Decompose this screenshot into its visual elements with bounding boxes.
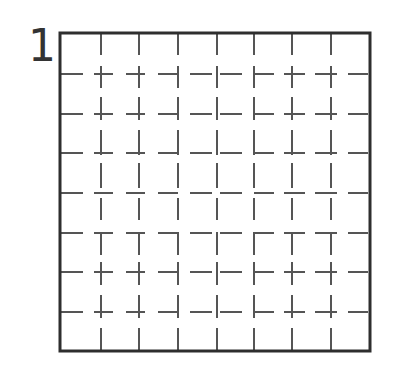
grid-dashes bbox=[61, 33, 368, 351]
dashed-grid-figure bbox=[0, 0, 394, 367]
